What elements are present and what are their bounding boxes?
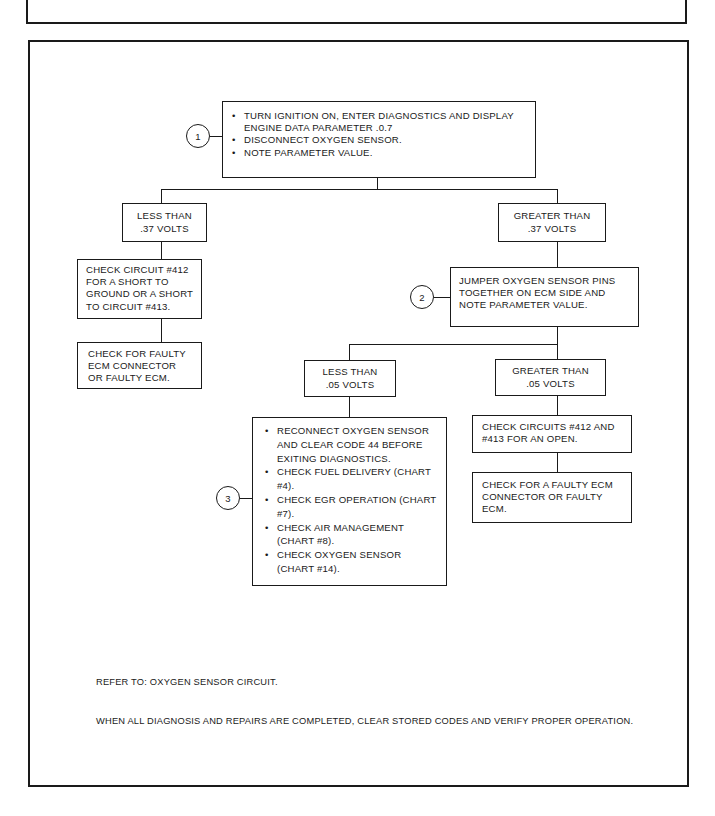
- greater-than-037-box: GREATER THAN .37 VOLTS: [498, 203, 606, 242]
- check-faulty-ecm-left-text: CHECK FOR FAULTY ECM CONNECTOR OR FAULTY…: [88, 348, 186, 383]
- branch-label: LESS THAN: [137, 210, 192, 222]
- check-faulty-ecm-left-box: CHECK FOR FAULTY ECM CONNECTOR OR FAULTY…: [77, 342, 202, 389]
- connector-line: [557, 189, 558, 203]
- refer-to-note: REFER TO: OXYGEN SENSOR CIRCUIT.: [96, 676, 656, 689]
- check-faulty-ecm-right-box: CHECK FOR A FAULTY ECM CONNECTOR OR FAUL…: [472, 472, 632, 523]
- step-1-item: TURN IGNITION ON, ENTER DIAGNOSTICS AND …: [244, 110, 528, 134]
- connector-line: [161, 242, 162, 259]
- connector-line: [161, 319, 162, 342]
- connector-line: [240, 498, 252, 499]
- greater-than-005-box: GREATER THAN .05 VOLTS: [495, 359, 606, 396]
- connector-line: [557, 453, 558, 472]
- connector-line: [377, 178, 378, 189]
- connector-line: [349, 344, 350, 360]
- step-2-number: 2: [419, 292, 424, 303]
- check-circuits-open-text: CHECK CIRCUITS #412 AND #413 FOR AN OPEN…: [482, 421, 615, 444]
- step-3-box: RECONNECT OXYGEN SENSOR AND CLEAR CODE 4…: [252, 417, 447, 586]
- check-faulty-ecm-right-text: CHECK FOR A FAULTY ECM CONNECTOR OR FAUL…: [482, 479, 613, 514]
- step-1-item: NOTE PARAMETER VALUE.: [244, 147, 528, 159]
- branch-value: .37 VOLTS: [528, 223, 577, 235]
- completion-note: WHEN ALL DIAGNOSIS AND REPAIRS ARE COMPL…: [96, 715, 656, 728]
- step-2-text: JUMPER OXYGEN SENSOR PINS TOGETHER ON EC…: [459, 275, 615, 310]
- branch-value: .37 VOLTS: [140, 223, 189, 235]
- step-1-marker: 1: [186, 124, 210, 148]
- connector-line: [557, 396, 558, 415]
- branch-label: GREATER THAN: [512, 365, 589, 377]
- less-than-037-box: LESS THAN .37 VOLTS: [122, 203, 207, 242]
- connector-line: [161, 189, 162, 203]
- step-3-marker: 3: [216, 486, 240, 510]
- connector-line: [557, 344, 558, 359]
- step-3-item: CHECK FUEL DELIVERY (CHART #4).: [277, 465, 440, 493]
- connector-line: [349, 397, 350, 417]
- connector-line: [557, 242, 558, 267]
- check-circuit-412-box: CHECK CIRCUIT #412 FOR A SHORT TO GROUND…: [77, 259, 202, 319]
- step-3-item: CHECK AIR MANAGEMENT (CHART #8).: [277, 521, 440, 549]
- connector-line: [434, 297, 450, 298]
- step-2-marker: 2: [410, 285, 434, 309]
- step-1-item: DISCONNECT OXYGEN SENSOR.: [244, 134, 528, 146]
- check-circuits-open-box: CHECK CIRCUITS #412 AND #413 FOR AN OPEN…: [472, 415, 632, 453]
- step-1-number: 1: [195, 131, 200, 142]
- connector-line: [161, 189, 558, 190]
- connector-line: [557, 327, 558, 344]
- connector-line: [349, 344, 558, 345]
- step-3-list: RECONNECT OXYGEN SENSOR AND CLEAR CODE 4…: [263, 424, 440, 576]
- branch-label: GREATER THAN: [514, 210, 591, 222]
- step-3-number: 3: [225, 493, 230, 504]
- branch-value: .05 VOLTS: [326, 379, 375, 391]
- step-3-item: CHECK OXYGEN SENSOR (CHART #14).: [277, 548, 440, 576]
- branch-label: LESS THAN: [323, 366, 378, 378]
- branch-value: .05 VOLTS: [526, 378, 575, 390]
- connector-line: [210, 136, 222, 137]
- less-than-005-box: LESS THAN .05 VOLTS: [304, 360, 396, 397]
- step-2-box: JUMPER OXYGEN SENSOR PINS TOGETHER ON EC…: [450, 267, 639, 327]
- step-3-item: RECONNECT OXYGEN SENSOR AND CLEAR CODE 4…: [277, 424, 440, 465]
- check-circuit-412-text: CHECK CIRCUIT #412 FOR A SHORT TO GROUND…: [86, 264, 193, 312]
- step-3-item: CHECK EGR OPERATION (CHART #7).: [277, 493, 440, 521]
- step-1-list: TURN IGNITION ON, ENTER DIAGNOSTICS AND …: [230, 110, 528, 159]
- step-1-box: TURN IGNITION ON, ENTER DIAGNOSTICS AND …: [222, 101, 536, 178]
- title-banner: LEAN EXHAUST SIGNAL: [26, 0, 687, 24]
